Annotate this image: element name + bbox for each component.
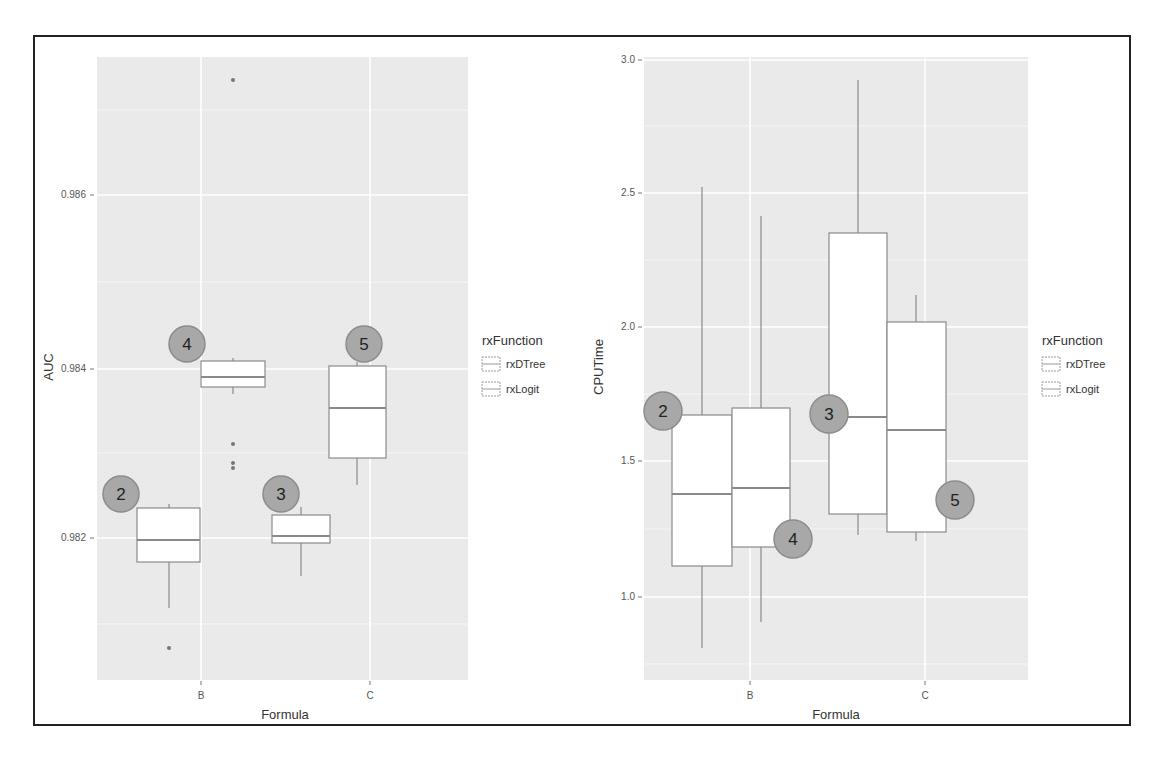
svg-text:rxDTree: rxDTree: [506, 358, 545, 370]
outlier-point: [231, 466, 235, 470]
auc-legend-item-rxlogit[interactable]: rxLogit: [482, 382, 539, 396]
auc-badge-5: 5: [346, 326, 382, 362]
outlier-point: [231, 461, 235, 465]
auc-x-tick-c: C: [366, 690, 373, 701]
auc-badge-3: 3: [263, 476, 299, 512]
svg-text:3: 3: [276, 485, 285, 504]
cputime-legend-item-rxdtree[interactable]: rxDTree: [1042, 357, 1105, 371]
auc-legend: rxFunction rxDTree rxLogit: [482, 333, 545, 396]
auc-y-tick-0986: 0.986: [61, 189, 86, 200]
cputime-y-tick-2-0: 2.0: [621, 321, 635, 332]
svg-text:4: 4: [788, 530, 797, 549]
auc-legend-item-rxdtree[interactable]: rxDTree: [482, 357, 545, 371]
auc-y-tick-0984: 0.984: [61, 363, 86, 374]
cputime-y-tick-1-5: 1.5: [621, 455, 635, 466]
cputime-x-tick-c: C: [921, 690, 928, 701]
svg-text:5: 5: [359, 335, 368, 354]
outlier-point: [231, 78, 235, 82]
cputime-legend-title: rxFunction: [1042, 333, 1103, 348]
cputime-y-tick-1-0: 1.0: [621, 591, 635, 602]
auc-y-axis-title: AUC: [41, 353, 56, 380]
outlier-point: [167, 646, 171, 650]
auc-badge-4: 4: [169, 326, 205, 362]
figure-canvas: 0.986 0.984 0.982 B C Formula AUC: [0, 0, 1163, 761]
cputime-y-tick-3-0: 3.0: [621, 54, 635, 65]
svg-text:3: 3: [824, 405, 833, 424]
auc-x-axis-title: Formula: [261, 707, 309, 722]
cputime-badge-5: 5: [936, 481, 974, 519]
svg-text:rxLogit: rxLogit: [1066, 383, 1099, 395]
auc-chart: 0.986 0.984 0.982 B C Formula AUC: [41, 57, 545, 722]
outlier-point: [231, 442, 235, 446]
auc-legend-title: rxFunction: [482, 333, 543, 348]
cputime-badge-2: 2: [644, 392, 682, 430]
svg-text:5: 5: [950, 491, 959, 510]
cputime-chart: 3.0 2.5 2.0 1.5 1.0 B C Formula CPUTime: [591, 54, 1105, 722]
svg-text:rxLogit: rxLogit: [506, 383, 539, 395]
svg-text:2: 2: [116, 485, 125, 504]
auc-x-tick-b: B: [198, 690, 205, 701]
cputime-badge-3: 3: [810, 395, 848, 433]
cputime-legend: rxFunction rxDTree rxLogit: [1042, 333, 1105, 396]
svg-text:rxDTree: rxDTree: [1066, 358, 1105, 370]
auc-badge-2: 2: [103, 476, 139, 512]
cputime-x-axis-title: Formula: [812, 707, 860, 722]
cputime-y-axis-title: CPUTime: [591, 339, 606, 395]
svg-text:2: 2: [658, 402, 667, 421]
auc-y-tick-0982: 0.982: [61, 532, 86, 543]
svg-text:4: 4: [182, 335, 191, 354]
cputime-x-tick-b: B: [747, 690, 754, 701]
cputime-y-tick-2-5: 2.5: [621, 187, 635, 198]
cputime-badge-4: 4: [774, 520, 812, 558]
cputime-legend-item-rxlogit[interactable]: rxLogit: [1042, 382, 1099, 396]
